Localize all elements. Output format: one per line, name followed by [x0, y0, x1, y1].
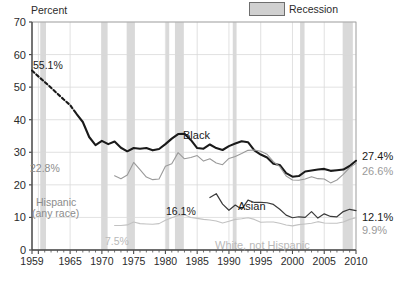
y-tick-label: 0 — [4, 245, 26, 255]
annotation-start-black: 55.1% — [33, 60, 63, 71]
series-label-black: Black — [183, 130, 210, 141]
y-tick-label: 30 — [4, 147, 26, 157]
poverty-rate-line-chart: Recession Percent 010203040506070 195919… — [0, 0, 400, 288]
end-value-hispanic: 26.6% — [362, 165, 393, 177]
y-tick-label: 50 — [4, 82, 26, 92]
x-tick-label: 2010 — [339, 256, 373, 267]
annotation-start-asian: 16.1% — [166, 206, 196, 217]
series-label-white: White, not Hispanic — [215, 240, 310, 251]
x-tick-label: 2005 — [307, 256, 341, 267]
x-tick-label: 1970 — [85, 256, 119, 267]
end-value-black: 27.4% — [362, 150, 393, 162]
x-tick-label: 1980 — [148, 256, 182, 267]
series-label-asian: Asian — [238, 201, 266, 212]
y-tick-label: 40 — [4, 115, 26, 125]
data-series — [32, 71, 356, 226]
x-tick-label: 1985 — [180, 256, 214, 267]
x-tick-label: 1975 — [117, 256, 151, 267]
y-tick-label: 70 — [4, 17, 26, 27]
x-tick-label: 1995 — [244, 256, 278, 267]
x-tick-label: 1965 — [53, 256, 87, 267]
annotation-start-hispanic: 22.8% — [30, 163, 60, 174]
x-tick-label: 1990 — [212, 256, 246, 267]
annotation-start-white: 7.5% — [105, 236, 129, 247]
series-label-hispanic-2: (any race) — [32, 208, 79, 219]
y-tick-label: 20 — [4, 180, 26, 190]
end-value-white: 9.9% — [362, 224, 387, 236]
y-tick-label: 60 — [4, 50, 26, 60]
plot-canvas — [0, 0, 400, 288]
x-tick-label: 2000 — [275, 256, 309, 267]
end-value-asian: 12.1% — [362, 211, 393, 223]
y-tick-label: 10 — [4, 212, 26, 222]
x-tick-label: 1959 — [15, 256, 49, 267]
